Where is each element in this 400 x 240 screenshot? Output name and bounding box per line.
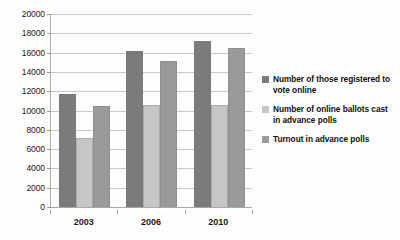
plot-wrapper [50,14,252,207]
legend-item-label: Number of those registered to vote onlin… [273,74,396,95]
bar [194,41,211,207]
y-axis-tick-label: 0 [40,202,45,212]
bar [93,106,110,207]
y-axis-labels: 0200040006000800010000120001400016000180… [0,14,45,207]
y-axis-tick-label: 16000 [22,48,45,58]
y-axis-tick-label: 12000 [22,86,45,96]
y-axis-tick-label: 20000 [22,9,45,19]
legend-swatch-icon [262,136,269,143]
x-axis-tick [117,210,118,214]
bar-group [51,14,118,207]
y-axis-tick-label: 10000 [22,106,45,116]
x-axis-labels: 200320062010 [50,210,252,230]
gridline [51,207,252,208]
legend-item[interactable]: Turnout in advance polls [262,134,396,145]
x-axis-tick [252,210,253,214]
bar-group [186,14,253,207]
x-axis-tick-label: 2003 [74,217,94,227]
bar-groups [51,14,252,207]
legend-item-label: Turnout in advance polls [273,134,369,145]
x-axis-tick-label: 2006 [141,217,161,227]
y-axis-tick-label: 6000 [26,144,45,154]
legend-swatch-icon [262,76,269,83]
bar [211,105,228,207]
bar [76,138,93,207]
x-axis-tick-label: 2010 [208,217,228,227]
bar-group [118,14,185,207]
y-axis-tick-label: 18000 [22,28,45,38]
legend-item-label: Number of online ballots cast in advance… [273,104,396,125]
y-axis-tick-label: 2000 [26,183,45,193]
bar-chart: 0200040006000800010000120001400016000180… [0,0,400,240]
y-axis-tick [47,207,51,208]
legend-item[interactable]: Number of those registered to vote onlin… [262,74,396,95]
chart-legend: Number of those registered to vote onlin… [262,74,396,154]
y-axis-tick-label: 4000 [26,163,45,173]
x-axis-tick [185,210,186,214]
bar [59,94,76,207]
x-axis-tick [50,210,51,214]
y-axis-tick-label: 14000 [22,67,45,77]
bar [143,105,160,207]
y-axis-tick-label: 8000 [26,125,45,135]
bar [228,48,245,207]
bar [126,51,143,207]
legend-swatch-icon [262,106,269,113]
legend-item[interactable]: Number of online ballots cast in advance… [262,104,396,125]
bar [160,61,177,207]
plot-area [50,14,252,207]
